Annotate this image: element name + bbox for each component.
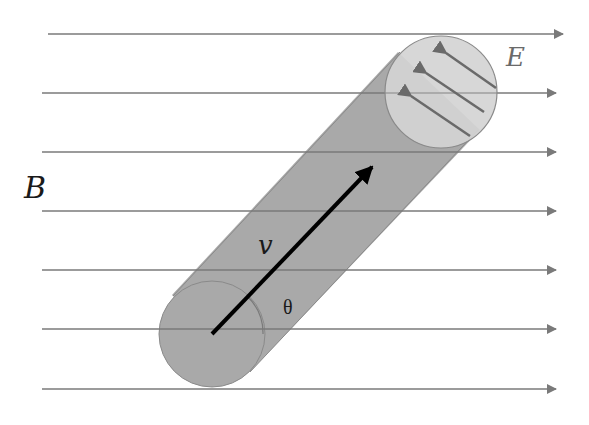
electric-field-label: E	[506, 42, 525, 72]
velocity-label: v	[258, 230, 273, 260]
diagram-canvas	[0, 0, 589, 425]
angle-label: θ	[283, 296, 293, 319]
magnetic-field-label: B	[24, 170, 46, 205]
cylinder-top-cap	[385, 36, 497, 148]
